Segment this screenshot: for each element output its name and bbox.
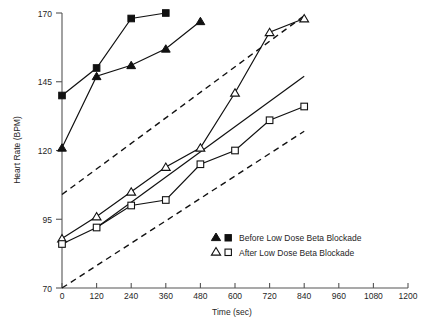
data-point-open-square bbox=[197, 161, 204, 168]
data-point-open-square bbox=[232, 147, 239, 154]
x-tick-label: 600 bbox=[228, 291, 242, 301]
x-axis-tick-labels: 0 120 240 360 480 600 720 840 960 1080 1… bbox=[60, 291, 418, 301]
y-tick-label: 70 bbox=[43, 284, 53, 294]
x-tick-label: 720 bbox=[263, 291, 277, 301]
y-tick-label: 170 bbox=[38, 9, 52, 19]
upper-dashed-reference bbox=[62, 16, 304, 195]
data-point-open-square bbox=[266, 117, 273, 124]
data-point-filled-triangle bbox=[92, 72, 101, 79]
chart-container: 170 145 120 95 70 Heart Rate (BPM) 0 120 bbox=[0, 0, 425, 325]
x-tick-label: 240 bbox=[124, 291, 138, 301]
legend-label-after: After Low Dose Beta Blockade bbox=[239, 248, 355, 258]
x-tick-label: 1080 bbox=[364, 291, 383, 301]
series-2 bbox=[58, 15, 309, 242]
series-line bbox=[62, 19, 304, 239]
data-point-filled-square bbox=[93, 65, 100, 72]
filled-triangle-icon bbox=[211, 233, 220, 241]
data-point-filled-triangle bbox=[196, 17, 205, 24]
data-point-filled-triangle bbox=[127, 61, 136, 68]
series-line bbox=[62, 13, 166, 96]
series-line bbox=[62, 21, 200, 148]
x-axis-title: Time (sec) bbox=[212, 307, 252, 317]
x-tick-label: 0 bbox=[60, 291, 65, 301]
x-axis-ticks bbox=[62, 283, 408, 288]
data-point-filled-triangle bbox=[58, 144, 67, 151]
legend-label-before: Before Low Dose Beta Blockade bbox=[239, 233, 362, 243]
data-point-filled-square bbox=[163, 10, 170, 17]
legend-row-before: Before Low Dose Beta Blockade bbox=[211, 233, 361, 243]
legend-row-after: After Low Dose Beta Blockade bbox=[211, 248, 354, 258]
x-tick-label: 120 bbox=[90, 291, 104, 301]
data-point-open-triangle bbox=[161, 163, 170, 170]
series-0 bbox=[58, 17, 205, 151]
x-tick-label: 480 bbox=[193, 291, 207, 301]
x-tick-label: 960 bbox=[332, 291, 346, 301]
x-tick-label: 840 bbox=[297, 291, 311, 301]
y-tick-label: 95 bbox=[43, 215, 53, 225]
data-point-open-square bbox=[163, 197, 170, 204]
x-tick-label: 360 bbox=[159, 291, 173, 301]
open-triangle-icon bbox=[211, 248, 220, 256]
y-tick-label: 120 bbox=[38, 146, 52, 156]
x-tick-label: 1200 bbox=[399, 291, 418, 301]
series-1 bbox=[59, 10, 169, 99]
data-point-filled-square bbox=[128, 15, 135, 22]
lower-dashed-reference bbox=[62, 131, 304, 288]
y-axis-title: Heart Rate (BPM) bbox=[12, 116, 22, 184]
data-point-open-triangle bbox=[196, 144, 205, 151]
data-point-open-square bbox=[128, 202, 135, 209]
series-line bbox=[62, 107, 304, 245]
series-3 bbox=[59, 103, 308, 247]
data-point-open-triangle bbox=[265, 28, 274, 35]
y-tick-label: 145 bbox=[38, 77, 52, 87]
data-series-group bbox=[58, 10, 309, 248]
y-axis-tick-labels: 170 145 120 95 70 bbox=[38, 9, 52, 294]
open-square-icon bbox=[225, 249, 231, 255]
heart-rate-line-chart: 170 145 120 95 70 Heart Rate (BPM) 0 120 bbox=[0, 0, 425, 325]
data-point-open-triangle bbox=[231, 89, 240, 96]
data-point-open-square bbox=[59, 241, 66, 248]
filled-square-icon bbox=[225, 235, 231, 241]
data-point-open-square bbox=[93, 224, 100, 231]
data-point-filled-square bbox=[59, 92, 66, 99]
legend: Before Low Dose Beta Blockade After Low … bbox=[211, 233, 361, 258]
data-point-open-square bbox=[301, 103, 308, 110]
